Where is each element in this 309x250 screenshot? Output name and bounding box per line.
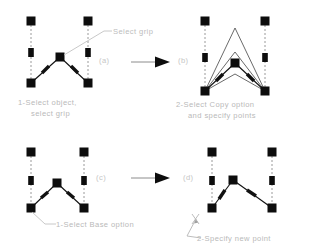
panel-c-label: (c): [96, 173, 106, 182]
panel-c-leader-line: [32, 212, 45, 224]
panel-b-grip-top-right: [261, 17, 270, 26]
panel-d-grip-bottom-left: [208, 204, 217, 213]
ucs-icon-y-axis: [187, 219, 196, 236]
panel-a-grip-mid-right: [85, 48, 91, 57]
panel-a-grip-mid-left: [28, 48, 34, 57]
diagram-svg: Select grip (a) 1-Select object, select …: [0, 0, 309, 250]
panel-b-grip-top-left: [201, 17, 210, 26]
panel-a-grip-top-left: [27, 17, 36, 26]
panel-d-grip-bottom-right: [268, 204, 277, 213]
panel-b-grip-mid-left: [202, 53, 208, 62]
panel-d-midgrip-left: [219, 190, 225, 199]
select-grip-annotation: Select grip: [113, 27, 153, 36]
panel-d-grip-top-left: [208, 148, 217, 157]
panel-c-grip-bottom-right: [80, 204, 89, 213]
arrow-c-to-d-head: [155, 173, 170, 184]
arrow-a-to-b: [131, 57, 170, 68]
panel-d: (d) 2-Specify new point: [183, 148, 277, 244]
panel-d-grip-mid-left: [209, 176, 215, 185]
panel-c-midgrip-left: [41, 192, 48, 198]
panel-a-caption-line1: 1-Select object,: [18, 98, 77, 107]
panel-d-midgrip-right: [247, 190, 256, 196]
panel-a-label: (a): [99, 56, 110, 65]
panel-c-grip-mid-left: [28, 176, 34, 185]
panel-c-caption-line1: 1-Select Base option: [56, 220, 134, 229]
panel-b-label: (b): [178, 56, 189, 65]
panel-c-grip-top-right: [80, 148, 89, 157]
panel-a-grip-top-right: [84, 17, 93, 26]
panel-c-grip-mid-right: [81, 176, 87, 185]
panel-c-grip-top-left: [27, 148, 36, 157]
panel-a-midgrip-left: [42, 66, 49, 73]
panel-c-grip-apex-selected: [53, 179, 62, 188]
panel-d-grip-apex-selected: [229, 176, 238, 185]
panel-b-grip-bottom-left: [201, 87, 210, 96]
panel-b-caption-line2: and specify points: [188, 111, 256, 120]
select-grip-leader-line: [64, 31, 104, 55]
panel-d-caption-line1: 2-Specify new point: [197, 234, 271, 243]
panel-b-grip-mid-right: [262, 53, 268, 62]
panel-b-copy2-left: [205, 52, 235, 91]
panel-b-grip-bottom-right: [261, 87, 270, 96]
panel-b-copy2-right: [235, 52, 265, 91]
figure-container: Select grip (a) 1-Select object, select …: [0, 0, 309, 250]
panel-a-grip-bottom-left: [27, 79, 36, 88]
panel-a-grip-apex-selected: [56, 53, 65, 62]
panel-c-grip-bottom-left: [27, 204, 36, 213]
panel-b-grip-apex-selected: [231, 59, 240, 68]
panel-a-midgrip-right: [71, 66, 78, 73]
arrow-c-to-d: [131, 173, 170, 184]
panel-a-grip-bottom-right: [84, 79, 93, 88]
panel-b: (b) 2-Select Copy option and specify poi…: [176, 17, 270, 121]
panel-c: (c) 1-Select Base option: [27, 148, 135, 230]
arrow-a-to-b-head: [155, 57, 170, 68]
panel-d-grip-top-right: [268, 148, 277, 157]
panel-b-caption-line1: 2-Select Copy option: [176, 100, 255, 109]
panel-d-grip-mid-right: [269, 176, 275, 185]
panel-c-midgrip-right: [67, 192, 74, 198]
panel-a: Select grip (a) 1-Select object, select …: [18, 17, 153, 119]
panel-d-label: (d): [183, 173, 194, 182]
panel-a-caption-line2: select grip: [31, 109, 70, 118]
